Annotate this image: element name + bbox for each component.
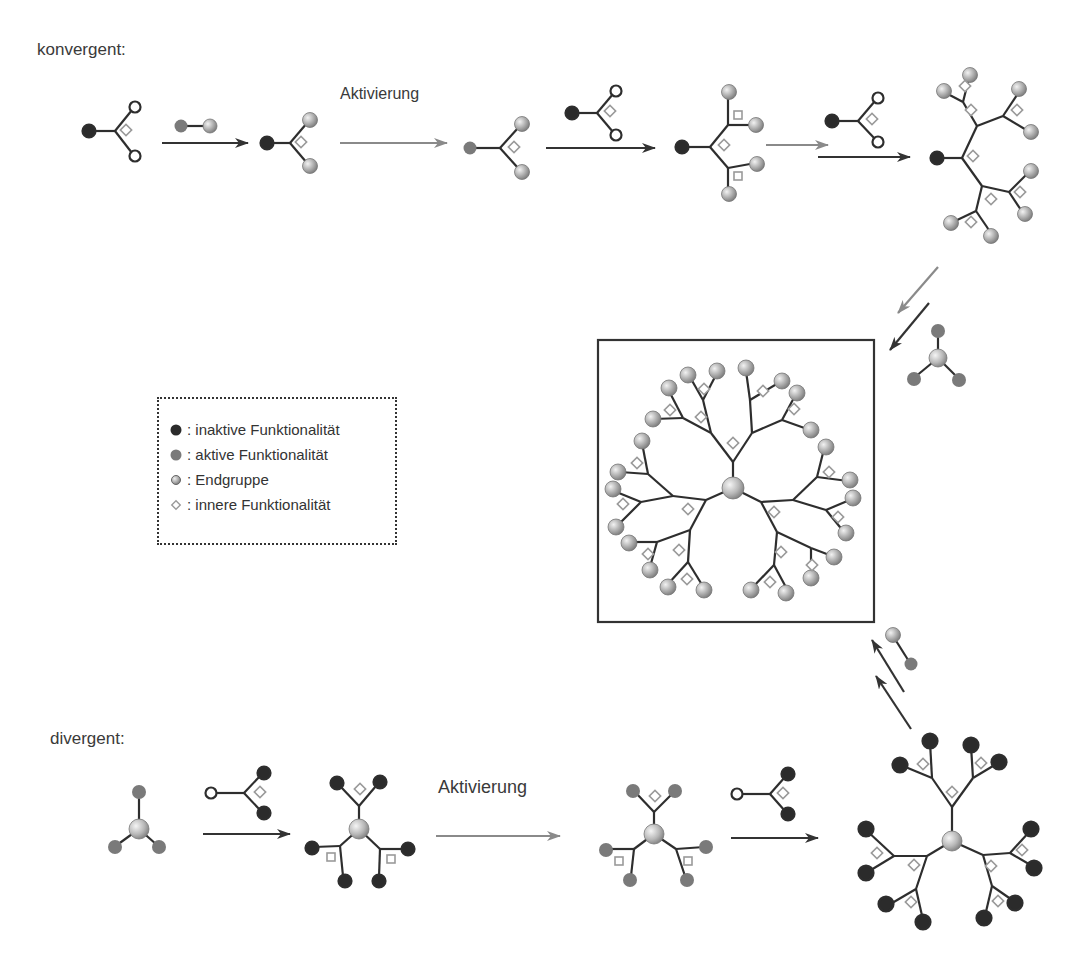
reagent-endgroup-pair: [175, 119, 218, 133]
legend-item-endgroup: : Endgruppe: [169, 467, 395, 492]
legend-item-inner: : innere Funktionalität: [169, 492, 395, 517]
legend-label: : inaktive Funktionalität: [187, 421, 340, 438]
shaded-sphere-icon: [169, 473, 183, 487]
legend-item-active: : aktive Funktionalität: [169, 442, 395, 467]
legend-item-inactive: : inaktive Funktionalität: [169, 417, 395, 442]
legend-label: : aktive Funktionalität: [187, 446, 328, 463]
dark-filled-circle-icon: [169, 423, 183, 437]
legend: : inaktive Funktionalität : aktive Funkt…: [157, 397, 397, 545]
gray-filled-circle-icon: [169, 448, 183, 462]
legend-label: : Endgruppe: [187, 471, 269, 488]
open-diamond-icon: [169, 498, 183, 512]
legend-label: : innere Funktionalität: [187, 496, 330, 513]
monomer-ab2-protected: [83, 102, 141, 162]
